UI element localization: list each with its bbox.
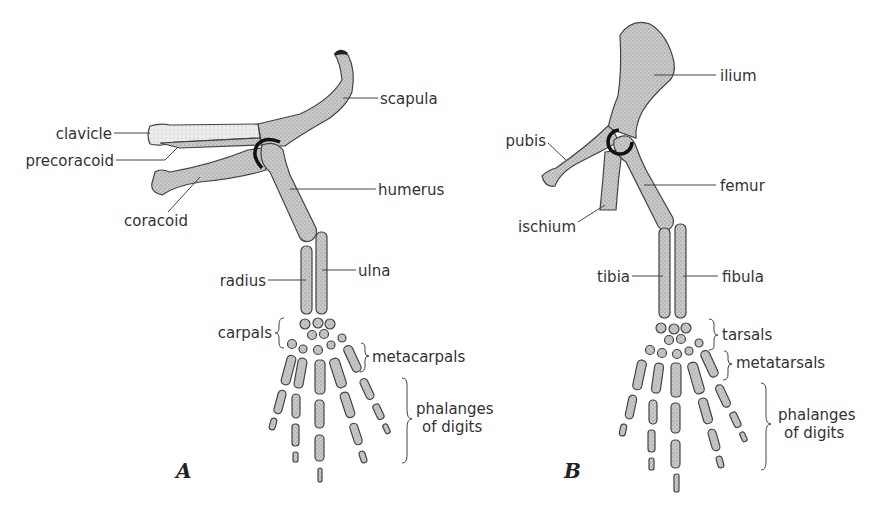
label-ilium: ilium bbox=[720, 67, 757, 85]
femur-bone bbox=[614, 136, 674, 231]
tibia-bone bbox=[659, 228, 670, 318]
tarsals-group bbox=[646, 323, 704, 359]
coracoid-bone bbox=[152, 148, 266, 195]
label-phalanges-a-line2: of digits bbox=[422, 418, 482, 436]
panel-label-a: A bbox=[174, 459, 192, 483]
label-phalanges-b-line1: phalanges bbox=[778, 406, 856, 424]
label-precoracoid: precoracoid bbox=[26, 152, 114, 170]
label-scapula: scapula bbox=[380, 90, 438, 108]
label-ischium: ischium bbox=[518, 218, 576, 236]
label-tibia: tibia bbox=[597, 268, 630, 286]
panel-b-hindlimb: ilium pubis femur ischium tibia fibula t… bbox=[505, 22, 855, 492]
limb-skeleton-diagram: scapula clavicle precoracoid humerus cor… bbox=[0, 0, 874, 508]
label-humerus: humerus bbox=[378, 181, 445, 199]
label-phalanges-a-line1: phalanges bbox=[416, 400, 494, 418]
label-coracoid: coracoid bbox=[124, 212, 188, 230]
label-femur: femur bbox=[720, 177, 766, 195]
label-metatarsals: metatarsals bbox=[736, 354, 825, 372]
label-phalanges-b-line2: of digits bbox=[784, 424, 844, 442]
label-tarsals: tarsals bbox=[722, 326, 772, 344]
panel-a-forelimb: scapula clavicle precoracoid humerus cor… bbox=[26, 51, 494, 483]
humerus-bone bbox=[261, 143, 317, 241]
label-fibula: fibula bbox=[722, 268, 764, 286]
label-pubis: pubis bbox=[505, 132, 546, 150]
label-clavicle: clavicle bbox=[56, 125, 112, 143]
label-carpals: carpals bbox=[218, 324, 272, 342]
fibula-bone bbox=[675, 224, 686, 318]
ulna-bone bbox=[316, 232, 327, 314]
label-ulna: ulna bbox=[358, 262, 390, 280]
scapula-bone bbox=[258, 52, 353, 147]
panel-label-b: B bbox=[563, 459, 581, 483]
ischium-bone bbox=[600, 150, 622, 210]
label-metacarpals: metacarpals bbox=[372, 348, 465, 366]
label-radius: radius bbox=[220, 272, 267, 290]
ilium-bone bbox=[608, 22, 674, 138]
carpals-group bbox=[288, 318, 347, 355]
